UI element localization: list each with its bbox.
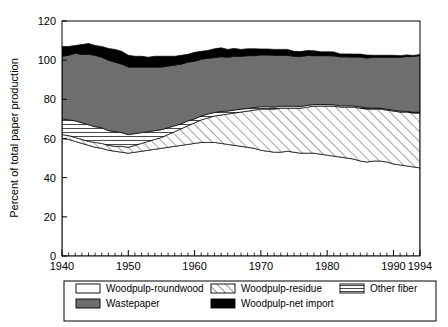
y-tick-label: 60 <box>44 133 56 145</box>
y-tick-label: 20 <box>44 211 56 223</box>
y-tick-label: 120 <box>38 15 56 27</box>
x-tick-label: 1950 <box>116 260 140 272</box>
x-tick-label: 1980 <box>315 260 339 272</box>
legend-label-woodpulp-residue: Woodpulp-residue <box>241 283 322 294</box>
y-axis-title: Percent of total paper production <box>8 58 20 218</box>
legend-label-wastepaper: Wastepaper <box>106 298 160 309</box>
x-tick-label: 1960 <box>182 260 206 272</box>
stacked-area-chart: 020406080100120 194019501960197019801990… <box>0 0 448 327</box>
x-tick-label: 1940 <box>50 260 74 272</box>
x-tick-label: 1970 <box>249 260 273 272</box>
x-tick-label: 1994 <box>408 260 432 272</box>
legend-swatch-other-fiber <box>340 284 364 293</box>
legend-label-woodpulp-roundwood: Woodpulp-roundwood <box>106 283 204 294</box>
x-tick-label: 1990 <box>381 260 405 272</box>
legend-swatch-woodpulp-net-import <box>211 299 235 308</box>
y-tick-label: 40 <box>44 172 56 184</box>
legend-swatch-woodpulp-residue <box>211 284 235 293</box>
y-tick-label: 100 <box>38 54 56 66</box>
y-tick-label: 80 <box>44 93 56 105</box>
legend-swatch-woodpulp-roundwood <box>76 284 100 293</box>
chart-figure: 020406080100120 194019501960197019801990… <box>0 0 448 327</box>
legend-swatch-wastepaper <box>76 299 100 308</box>
legend-label-woodpulp-net-import: Woodpulp-net import <box>241 298 334 309</box>
area-series-group <box>62 44 420 256</box>
legend-label-other-fiber: Other fiber <box>370 283 418 294</box>
